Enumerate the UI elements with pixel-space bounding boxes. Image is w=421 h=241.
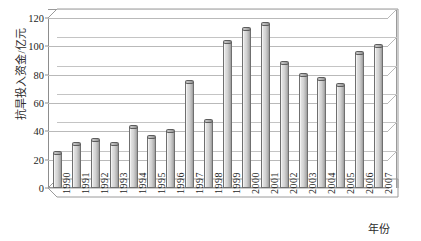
bar — [204, 121, 213, 188]
bar-cap — [91, 138, 100, 142]
bar — [280, 63, 289, 188]
bar-cap — [129, 125, 138, 129]
gridline-depth — [388, 122, 398, 132]
bar-chart: 抗旱投入资金/亿元 020406080100120 19901991199219… — [0, 0, 421, 241]
x-tick-label: 2003 — [307, 172, 318, 194]
bar-cap — [166, 129, 175, 133]
x-tick-label: 2004 — [326, 172, 337, 194]
y-tick-label: 120 — [28, 13, 44, 24]
x-tick-label: 2007 — [383, 172, 394, 194]
bar — [166, 131, 175, 188]
x-tick-label: 1993 — [118, 172, 129, 194]
bar-cap — [147, 135, 156, 139]
x-tick-label: 2001 — [269, 172, 280, 194]
gridline-depth — [388, 66, 398, 76]
bar-cap — [261, 22, 270, 26]
bar — [261, 24, 270, 188]
bar-cap — [336, 83, 345, 87]
x-tick-label: 1990 — [61, 172, 72, 194]
x-axis-title: 年份 — [368, 220, 390, 236]
bar-cap — [185, 80, 194, 84]
y-axis-title: 抗旱投入资金/亿元 — [12, 14, 28, 134]
x-tick-label: 2006 — [364, 172, 375, 194]
y-tick-label: 20 — [34, 154, 45, 165]
bar — [374, 46, 383, 188]
bar-cap — [72, 142, 81, 146]
x-tick-label: 1999 — [231, 172, 242, 194]
bar-cap — [204, 119, 213, 123]
x-tick-label: 1998 — [213, 172, 224, 194]
y-tick-label: 80 — [34, 69, 45, 80]
plot-depth-top — [48, 9, 397, 18]
gridline-depth — [388, 151, 398, 161]
gridline-back — [57, 9, 397, 10]
gridline-depth — [388, 37, 398, 47]
bar — [336, 85, 345, 188]
bar — [299, 75, 308, 188]
bar-cap — [317, 77, 326, 81]
y-tick-label: 0 — [39, 183, 44, 194]
y-tick-label: 60 — [34, 98, 45, 109]
x-tick-label: 1995 — [156, 172, 167, 194]
x-tick-label: 1997 — [194, 172, 205, 194]
bar — [355, 53, 364, 188]
bar — [242, 29, 251, 188]
x-tick-label: 2005 — [345, 172, 356, 194]
x-tick-label: 1994 — [137, 172, 148, 194]
bar — [185, 82, 194, 188]
bar-cap — [299, 73, 308, 77]
bar-cap — [280, 61, 289, 65]
bar-cap — [53, 151, 62, 155]
bar-cap — [223, 40, 232, 44]
bar — [223, 42, 232, 188]
bar-series — [48, 18, 388, 188]
y-tick-label: 100 — [28, 41, 44, 52]
plot-area: 020406080100120 — [48, 18, 388, 188]
x-tick-label: 2000 — [250, 172, 261, 194]
x-tick-label: 1991 — [80, 172, 91, 194]
gridline-depth — [388, 9, 398, 19]
bar-cap — [374, 44, 383, 48]
y-tick-label: 40 — [34, 126, 45, 137]
bar-cap — [110, 142, 119, 146]
gridline-depth — [388, 94, 398, 104]
bar-cap — [355, 51, 364, 55]
x-tick-label: 1992 — [99, 172, 110, 194]
x-tick-label: 2002 — [288, 172, 299, 194]
x-tick-label: 1996 — [175, 172, 186, 194]
bar-cap — [242, 27, 251, 31]
